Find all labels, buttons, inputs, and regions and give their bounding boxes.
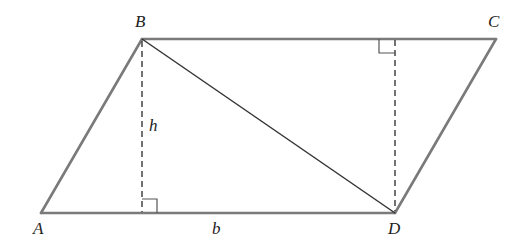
- diagram-canvas: [0, 0, 522, 251]
- right-angle-marker-bottom: [142, 199, 157, 213]
- edge-ab: [41, 39, 142, 213]
- base-label-b: b: [212, 220, 221, 237]
- vertex-label-d: D: [388, 220, 400, 237]
- edge-cd: [395, 39, 496, 213]
- height-label-h: h: [149, 117, 158, 134]
- vertex-label-a: A: [33, 220, 43, 237]
- parallelogram-diagram: B C A D h b: [0, 0, 522, 251]
- vertex-label-c: C: [488, 13, 499, 30]
- vertex-label-b: B: [135, 13, 145, 30]
- right-angle-marker-top: [379, 39, 395, 53]
- diagonal-bd: [142, 39, 395, 213]
